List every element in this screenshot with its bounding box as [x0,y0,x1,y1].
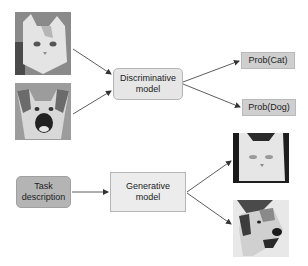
dog-photo [15,83,71,140]
generated-dog-image-icon [233,200,289,257]
discriminative-model-label-line1: Discriminative [120,73,176,84]
prob-cat-box: Prob(Cat) [241,52,295,69]
prob-dog-label: Prob(Dog) [248,102,290,113]
discriminative-model-box: Discriminative model [113,68,183,100]
generative-model-label-line2: model [136,192,161,203]
generative-model-label-line1: Generative [126,181,170,192]
task-description-label-line1: Task [34,181,53,192]
generated-cat-photo [233,133,289,183]
prob-dog-box: Prob(Dog) [242,99,296,116]
generated-cat-image-icon [233,133,289,183]
cat-image-icon [15,12,71,75]
prob-cat-label: Prob(Cat) [248,55,287,66]
generated-dog-photo [233,200,289,257]
discriminative-model-label-line2: model [136,84,161,95]
cat-photo [15,12,71,75]
dog-image-icon [15,83,71,140]
generative-model-box: Generative model [110,172,186,212]
task-description-label-line2: description [22,192,66,203]
task-description-box: Task description [16,176,71,208]
